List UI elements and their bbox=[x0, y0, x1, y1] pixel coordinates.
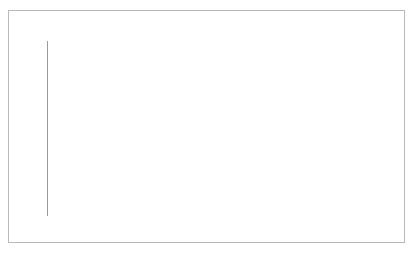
chart-figure bbox=[0, 0, 420, 262]
y-axis-tick-labels bbox=[8, 41, 42, 216]
plot-area bbox=[47, 41, 392, 216]
area-chart-svg bbox=[48, 41, 393, 216]
x-axis-tick-labels bbox=[47, 223, 392, 239]
